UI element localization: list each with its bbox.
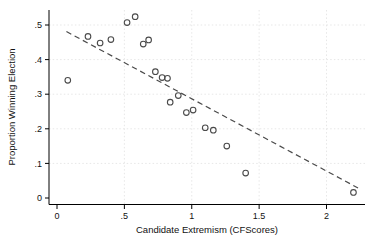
data-point-marker <box>243 170 249 176</box>
data-point-marker <box>202 125 208 131</box>
tick-marks <box>45 25 327 209</box>
data-point-marker <box>65 78 71 84</box>
data-point-marker <box>211 127 217 133</box>
data-point-marker <box>159 75 165 81</box>
x-tick-label: 2 <box>324 211 329 221</box>
y-tick-label: 0 <box>37 193 42 203</box>
tick-labels: 0.1.2.3.4.50.511.52 <box>34 20 329 220</box>
scatter-plot: 0.1.2.3.4.50.511.52 Candidate Extremism … <box>0 0 382 246</box>
x-tick-label: 0 <box>54 211 59 221</box>
x-tick-label: 1 <box>189 211 194 221</box>
data-point-marker <box>224 143 230 149</box>
y-tick-label: .3 <box>34 89 42 99</box>
data-point-marker <box>190 107 196 113</box>
data-point-marker <box>153 69 159 75</box>
data-point-marker <box>351 190 357 196</box>
data-point-marker <box>146 37 152 43</box>
y-tick-label: .1 <box>34 159 42 169</box>
data-point-marker <box>132 14 138 20</box>
data-point-marker <box>140 41 146 47</box>
data-points <box>65 14 356 195</box>
x-tick-label: 1.5 <box>253 211 266 221</box>
scatter-figure: 0.1.2.3.4.50.511.52 Candidate Extremism … <box>0 0 382 246</box>
y-tick-label: .5 <box>34 20 42 30</box>
x-tick-label: .5 <box>121 211 129 221</box>
data-point-marker <box>175 93 181 99</box>
y-tick-label: .2 <box>34 124 42 134</box>
data-point-marker <box>184 110 190 116</box>
data-point-marker <box>165 75 171 81</box>
data-point-marker <box>97 40 103 46</box>
trend-line-group <box>66 32 358 188</box>
x-axis-title: Candidate Extremism (CFScores) <box>136 224 278 235</box>
y-tick-label: .4 <box>34 55 42 65</box>
data-point-marker <box>167 99 173 105</box>
y-axis-title: Proportion Winning Election <box>6 48 17 165</box>
data-point-marker <box>85 34 91 40</box>
data-point-marker <box>108 37 114 43</box>
trend-line <box>66 32 358 188</box>
